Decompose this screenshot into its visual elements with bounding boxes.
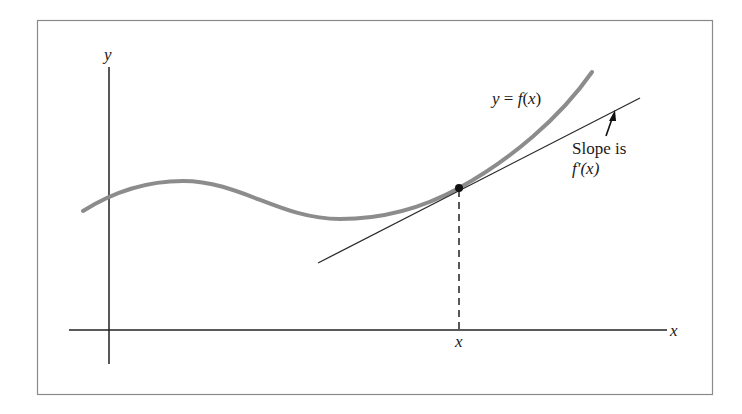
tangent-line [318,98,640,263]
slope-label-line2: f′(x) [572,159,600,178]
slope-label-line1: Slope is [572,139,626,158]
tangent-diagram: y x x y = f(x) Slope is f′(x) [0,0,742,414]
point-x-label: x [454,332,463,351]
y-axis-label: y [102,45,112,64]
figure-frame [38,21,713,395]
curve-label: y = f(x) [490,89,541,108]
tangency-point [455,184,463,192]
x-axis-label: x [669,321,678,340]
